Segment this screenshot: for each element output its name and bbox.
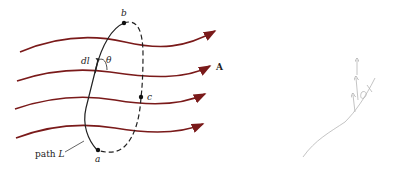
path-L [85,22,143,152]
field-line-3 [15,94,205,109]
label-a: a [95,154,100,164]
label-theta: θ [106,55,112,65]
field-line-1 [20,31,215,52]
pencil-sketch [303,60,375,157]
label-c: c [147,92,152,102]
label-dl: dl [81,56,90,66]
field-lines [15,31,215,138]
label-b: b [121,8,127,18]
path-label-leader [65,141,84,152]
field-line-4 [16,124,203,138]
point-c-dot [139,95,143,99]
field-diagram: b c a A dl θ path L [0,0,397,170]
field-line-2 [17,66,210,81]
sketch-curve [303,78,375,157]
label-A: A [215,62,224,72]
point-b-dot [122,21,126,25]
path-solid-segment [85,23,124,150]
label-path: path L [35,149,64,159]
sketch-arrow-1 [353,95,355,112]
point-a-dot [96,148,100,152]
sketch-arrow-2 [356,78,358,100]
